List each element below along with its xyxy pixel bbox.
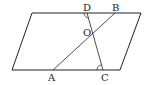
label-c: C (101, 72, 109, 83)
segment-dc (87, 13, 103, 70)
angle-mark-c (97, 65, 102, 70)
segment-ab (53, 13, 115, 70)
geometry-diagram: D B O A C (0, 0, 147, 85)
label-a: A (47, 72, 56, 83)
label-d: D (83, 2, 91, 13)
label-o: O (83, 27, 91, 38)
label-b: B (112, 2, 119, 13)
parallelogram (12, 13, 141, 70)
